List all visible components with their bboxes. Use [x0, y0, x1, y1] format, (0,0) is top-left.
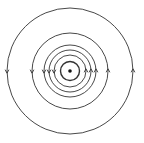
- wire-current-out-dot: [68, 69, 72, 73]
- magnetic-field-diagram: [0, 0, 144, 143]
